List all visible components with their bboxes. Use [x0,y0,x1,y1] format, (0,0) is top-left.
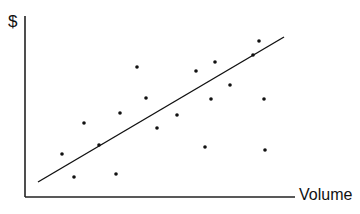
data-point [209,97,213,101]
data-point [263,148,267,152]
data-point [82,121,86,125]
data-point [213,60,217,64]
data-point [155,126,159,130]
trend-line [38,37,284,182]
data-point [135,65,139,69]
data-point [118,111,122,115]
data-point [114,172,118,176]
data-point [203,145,207,149]
y-axis-label: $ [8,12,17,32]
data-point [251,53,255,57]
data-point [72,175,76,179]
data-point [228,83,232,87]
data-point [175,113,179,117]
data-point [144,96,148,100]
data-point [262,97,266,101]
data-point [257,39,261,43]
data-point [60,152,64,156]
data-point [97,143,101,147]
data-point [194,69,198,73]
data-points [60,39,267,179]
scatter-plot [0,0,360,214]
x-axis-label: Volume [299,186,352,204]
